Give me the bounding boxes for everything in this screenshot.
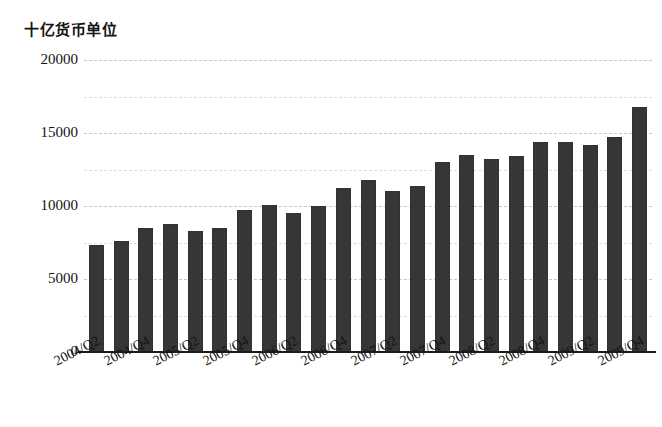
x-axis-tick-label: 2007/Q2	[349, 334, 399, 369]
x-axis-tick-label: 2005/Q2	[151, 334, 201, 369]
x-axis-tick-label: 2009/Q4	[596, 334, 646, 369]
x-axis-tick-label: 2008/Q4	[497, 334, 547, 369]
x-axis-tick-label: 2006/Q4	[299, 334, 349, 369]
x-axis-tick-labels: 2004/Q22004/Q42005/Q22005/Q42006/Q22006/…	[0, 0, 662, 427]
x-axis-tick-label: 2007/Q4	[398, 334, 448, 369]
x-axis-tick-label: 2006/Q2	[250, 334, 300, 369]
bar-chart: 十亿货币单位 05000100001500020000 2004/Q22004/…	[0, 0, 662, 427]
x-axis-tick-label: 2004/Q2	[52, 334, 102, 369]
x-axis-tick-label: 2009/Q2	[546, 334, 596, 369]
x-axis-tick-label: 2008/Q2	[447, 334, 497, 369]
x-axis-tick-label: 2004/Q4	[102, 334, 152, 369]
x-axis-tick-label: 2005/Q4	[201, 334, 251, 369]
